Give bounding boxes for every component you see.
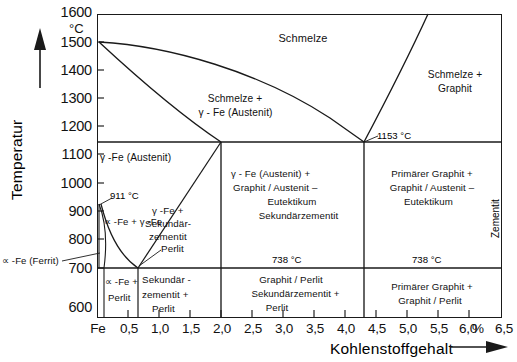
region-label-alpha-gamma: ∝ -Fe + γ -Fe [104,216,204,228]
annotation-738c-right: 738 °C [412,254,441,265]
annotation-911c: 911 °C [110,190,139,201]
a3-line [101,204,138,268]
region-label-mid-upper-line3: Eutektikum [231,196,353,208]
region-label-gamma-austenit: γ -Fe (Austenit) [100,152,220,164]
ferrite-solvus [99,204,106,268]
region-label-right-upper-line2: Graphit / Austenit – [371,182,493,194]
region-label-gamma-sek-line3: zementit [149,231,234,243]
region-label-zementit: Zementit [490,199,501,238]
region-label-schmelze-austenit-line1: Schmelze + [175,93,295,105]
region-label-sek-perlit-line2: zementit + [142,289,220,301]
temperature-arrowhead [34,28,46,50]
region-label-mid-upper-line4: Sekundärzementit [236,210,361,222]
carbon-arrowhead [486,341,508,353]
region-label-right-lower-line1: Primärer Graphit + [371,281,493,293]
region-label-mid-lower-line2: Sekundärzementit + [228,288,363,300]
annotation-1153c: 1153 °C [377,130,411,141]
annotation-738c-left: 738 °C [272,254,301,265]
region-label-mid-lower-line1: Graphit / Perlit [226,274,356,286]
annotation-perlit: Perlit [161,243,211,255]
annotation-alpha-ferrit: ∝ -Fe (Ferrit) [2,255,64,267]
region-label-sek-perlit-line1: Sekundär - [142,274,220,286]
liquidus-left-curve [99,42,364,142]
iron-carbon-phase-diagram: 1600 1500 1400 1300 1200 1100 1000 900 8… [0,0,517,362]
region-label-right-lower-line2: Graphit / Perlit [371,295,489,307]
region-label-schmelze-austenit-line2: γ - Fe (Austenit) [168,107,303,119]
region-label-mid-lower-line3: Perlit [222,302,332,314]
region-label-sek-perlit-line3: Perlit [152,303,222,315]
region-label-gamma-sek-line1: γ -Fe + [152,205,232,217]
region-label-right-upper-line3: Eutektikum [371,196,486,208]
region-label-right-upper-line1: Primärer Graphit + [371,168,493,180]
region-label-mid-upper-line1: γ - Fe (Austenit) + [231,168,361,180]
region-label-schmelze: Schmelze [258,33,348,45]
region-label-schmelze-graphit-line1: Schmelze + [410,69,500,81]
region-label-schmelze-graphit-line2: Graphit [410,83,500,95]
region-label-mid-upper-line2: Graphit / Austenit – [233,182,363,194]
solidus-curve [99,42,221,142]
